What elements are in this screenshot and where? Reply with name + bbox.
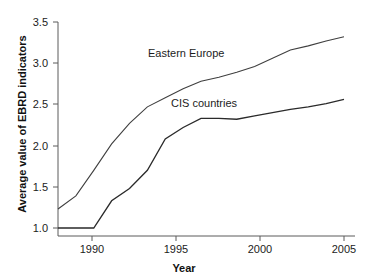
series-line-cis-countries xyxy=(58,99,344,228)
x-axis-ticks xyxy=(92,236,344,241)
chart-figure: 1.0 1.5 2.0 2.5 3.0 3.5 1990 1995 2000 2… xyxy=(0,0,368,280)
x-tick-label-1990: 1990 xyxy=(72,243,112,255)
series-label-cis-countries: CIS countries xyxy=(171,97,237,109)
line-chart-plot xyxy=(0,0,368,280)
x-tick-label-1995: 1995 xyxy=(156,243,196,255)
series-label-eastern-europe: Eastern Europe xyxy=(148,47,224,59)
y-axis-title: Average value of EBRD indicators xyxy=(16,24,28,224)
x-tick-label-2005: 2005 xyxy=(324,243,364,255)
x-tick-label-2000: 2000 xyxy=(240,243,280,255)
series-line-eastern-europe xyxy=(58,37,344,209)
y-axis-ticks xyxy=(53,22,58,228)
x-axis-title: Year xyxy=(0,262,368,274)
